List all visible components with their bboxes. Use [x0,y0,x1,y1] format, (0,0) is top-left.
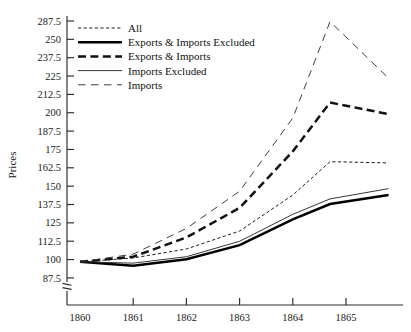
x-axis-tick-label: 1863 [229,312,250,323]
y-axis-tick-label: 175 [45,144,61,155]
y-axis-tick-label: 100 [45,254,61,265]
x-axis-tick-marks [133,298,346,305]
x-axis-tick-label: 1860 [70,312,91,323]
line-chart: Prices 287.5250237.5225212.5200187.51751… [0,0,411,332]
chart-legend: AllExports & Imports ExcludedExports & I… [78,22,255,91]
x-axis-tick-label: 1864 [282,312,304,323]
legend-item-label: Exports & Imports [128,50,211,62]
axis-break-icon [63,283,72,289]
y-axis-tick-label: 237.5 [37,52,61,63]
x-axis-tick-label: 1865 [336,312,357,323]
x-axis-tick-labels: 186018611862186318641865 [70,312,357,323]
y-axis-tick-labels: 287.5250237.5225212.5200187.5175162.5150… [37,16,61,284]
data-series-group [80,22,389,266]
x-axis-tick-label: 1862 [176,312,197,323]
data-series-line [80,22,389,262]
data-series-line [80,189,389,264]
y-axis-label: Prices [6,152,18,179]
y-axis-tick-label: 162.5 [37,162,61,173]
y-axis-tick-label: 150 [45,181,61,192]
data-series-line [80,103,389,262]
y-axis-tick-marks [67,21,74,278]
y-axis-tick-label: 250 [45,34,61,45]
y-axis-tick-label: 287.5 [37,16,61,27]
chart-container: Prices 287.5250237.5225212.5200187.51751… [0,0,411,332]
y-axis-tick-label: 225 [45,71,61,82]
y-axis-tick-label: 137.5 [37,199,61,210]
y-axis-tick-label: 212.5 [37,89,61,100]
y-axis-tick-label: 200 [45,107,61,118]
legend-item-label: Exports & Imports Excluded [128,36,255,48]
legend-item-label: Imports Excluded [128,65,207,77]
legend-item-label: Imports [128,79,162,91]
data-series-line [80,195,389,266]
y-axis-tick-label: 187.5 [37,126,61,137]
x-axis-tick-label: 1861 [123,312,144,323]
y-axis-tick-label: 125 [45,217,61,228]
y-axis-tick-label: 112.5 [38,236,61,247]
legend-item-label: All [128,22,142,34]
y-axis-tick-label: 87.5 [43,273,61,284]
